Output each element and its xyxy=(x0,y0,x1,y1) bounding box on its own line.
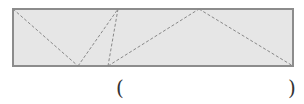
outer-rectangle xyxy=(13,9,293,66)
answer-paren-close: ) xyxy=(288,78,296,98)
rectangle-triangles-figure xyxy=(0,0,304,104)
answer-paren-open: ( xyxy=(116,78,124,98)
